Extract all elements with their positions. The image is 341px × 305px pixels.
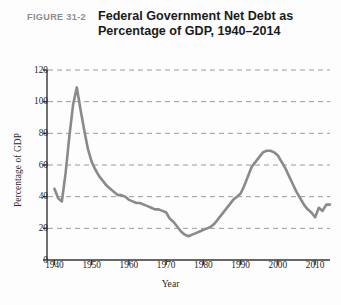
data-series-line [54, 87, 330, 236]
y-axis-tick-labels: 020406080100120 [22, 60, 48, 260]
y-tick-label: 100 [22, 97, 48, 106]
x-tick-label: 1980 [186, 260, 220, 270]
x-tick-label: 1940 [37, 260, 71, 270]
y-tick-label: 40 [22, 192, 48, 201]
figure-container: FIGURE 31-2 Federal Government Net Debt … [0, 0, 341, 305]
x-tick-label: 2000 [261, 260, 295, 270]
figure-header: FIGURE 31-2 Federal Government Net Debt … [0, 9, 341, 38]
x-tick-label: 1970 [149, 260, 183, 270]
figure-title-line-1: Federal Government Net Debt as [98, 9, 293, 23]
x-axis-title: Year [0, 278, 341, 289]
chart-plot-area: Percentage of GDP 020406080100120 194019… [0, 60, 341, 305]
y-tick-label: 120 [22, 66, 48, 75]
x-tick-label: 1960 [112, 260, 146, 270]
x-tick-label: 2010 [298, 260, 332, 270]
x-tick-label: 1990 [224, 260, 258, 270]
x-tick-label: 1950 [75, 260, 109, 270]
y-tick-label: 60 [22, 161, 48, 170]
grid-lines [48, 70, 330, 228]
y-tick-label: 20 [22, 224, 48, 233]
figure-number-label: FIGURE 31-2 [0, 9, 86, 22]
figure-title: Federal Government Net Debt as Percentag… [86, 9, 293, 38]
y-tick-label: 80 [22, 129, 48, 138]
line-chart-svg [0, 60, 341, 276]
figure-title-line-2: Percentage of GDP, 1940–2014 [98, 24, 293, 39]
x-axis-tick-labels: 19401950196019701980199020002010 [0, 260, 341, 276]
axis-lines [47, 70, 330, 260]
